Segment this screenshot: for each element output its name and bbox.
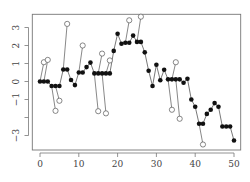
data-point <box>65 67 70 72</box>
data-point <box>181 80 186 85</box>
outlier-point <box>173 60 178 65</box>
outlier-connector <box>79 46 83 73</box>
data-point <box>119 41 124 46</box>
y-tick-label: 1 <box>11 61 21 67</box>
data-point <box>193 104 198 109</box>
y-tick-label: 2 <box>11 43 21 49</box>
data-point <box>108 71 113 76</box>
data-point <box>216 104 221 109</box>
x-tick-label: 30 <box>151 159 163 169</box>
data-point <box>142 50 147 55</box>
outlier-connector <box>168 79 172 109</box>
y-tick-label: −1 <box>11 93 21 106</box>
data-point <box>212 101 217 106</box>
outlier-point <box>53 108 58 113</box>
outlier-point <box>138 14 143 19</box>
y-tick-label: 0 <box>11 78 21 84</box>
data-point <box>150 84 155 89</box>
data-point <box>127 41 132 46</box>
x-axis: 01020304050 <box>37 153 240 169</box>
outlier-connector <box>102 73 106 113</box>
data-point <box>205 112 210 117</box>
outlier-connector <box>98 54 102 74</box>
outlier-connector <box>63 24 67 70</box>
outlier-point <box>103 111 108 116</box>
data-point <box>158 78 163 83</box>
x-tick-label: 50 <box>228 159 240 169</box>
outlier-point <box>107 58 112 63</box>
data-point <box>57 84 62 89</box>
outlier-point <box>177 116 182 121</box>
outlier-point <box>127 18 132 23</box>
data-point <box>232 138 237 143</box>
data-point <box>228 124 233 129</box>
outlier-connector <box>199 124 203 145</box>
y-tick-label: 3 <box>11 24 21 30</box>
y-tick-label: −3 <box>11 129 21 143</box>
data-point <box>201 122 206 127</box>
x-tick-label: 20 <box>112 159 124 169</box>
data-point <box>177 77 182 82</box>
data-point <box>162 68 167 73</box>
y-axis: −3−10123 <box>11 24 29 142</box>
data-point <box>111 49 116 54</box>
x-tick-label: 10 <box>73 159 85 169</box>
x-tick-label: 0 <box>37 159 43 169</box>
outlier-point <box>80 43 85 48</box>
x-tick-label: 40 <box>189 159 201 169</box>
data-point <box>139 40 144 45</box>
series-markers <box>38 32 237 143</box>
chart-container: 01020304050 −3−10123 <box>0 0 250 182</box>
data-point <box>80 70 85 75</box>
data-point <box>185 77 190 82</box>
data-point <box>154 62 159 67</box>
outlier-connector <box>94 73 98 111</box>
outlier-connector <box>125 20 129 43</box>
line-chart: 01020304050 −3−10123 <box>0 0 250 182</box>
data-point <box>45 79 50 84</box>
outlier-connector <box>137 17 141 42</box>
outlier-connector <box>52 86 56 111</box>
data-point <box>115 32 120 37</box>
outlier-connector <box>176 79 180 118</box>
outlier-point <box>57 98 62 103</box>
outlier-point <box>96 109 101 114</box>
outlier-point <box>99 51 104 56</box>
outlier-point <box>65 21 70 26</box>
data-point <box>73 83 78 88</box>
outlier-point <box>45 57 50 62</box>
data-point <box>88 60 93 65</box>
data-point <box>189 97 194 102</box>
outlier-point <box>169 107 174 112</box>
data-point <box>131 33 136 38</box>
plot-frame <box>32 14 240 150</box>
data-point <box>208 107 213 112</box>
data-point <box>69 78 74 83</box>
data-point <box>146 68 151 73</box>
data-point <box>84 65 89 70</box>
outlier-point <box>200 142 205 147</box>
